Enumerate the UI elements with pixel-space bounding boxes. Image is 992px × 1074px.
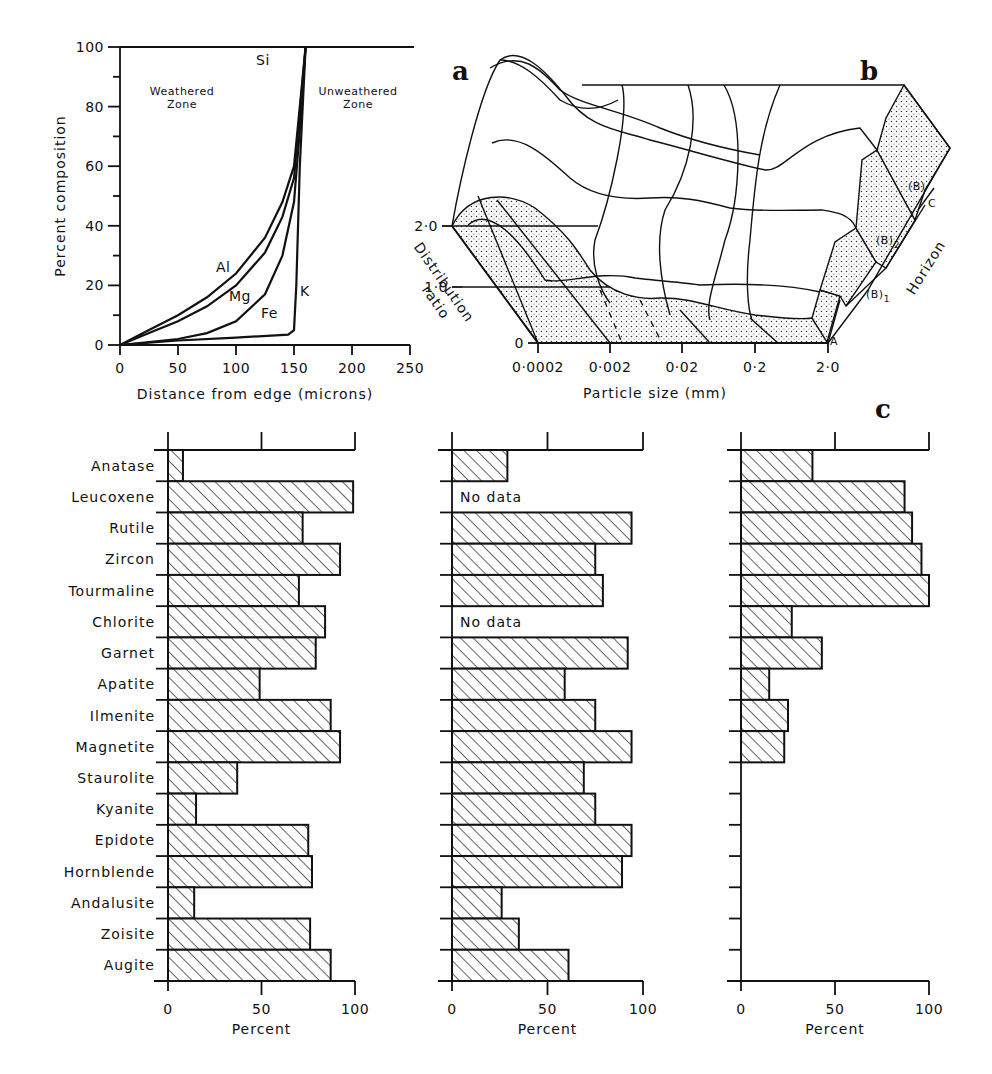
bar xyxy=(452,637,628,668)
category-label: Hornblende xyxy=(64,864,155,880)
bar xyxy=(452,762,584,793)
particle-size-tick: 0·02 xyxy=(665,359,698,375)
category-label: Augite xyxy=(104,957,155,973)
x-tick-label: 100 xyxy=(222,360,250,376)
unweathered-zone-label: Unweathered xyxy=(318,85,397,98)
bar xyxy=(452,825,632,856)
panel-a-letter: a xyxy=(452,56,469,86)
horizon-bc-label-c: C xyxy=(928,197,936,210)
particle-size-axis-title: Particle size (mm) xyxy=(583,385,727,401)
horizon-bc-label: (B) xyxy=(908,180,926,193)
weathered-zone-label-2: Zone xyxy=(167,98,197,111)
category-label: Kyanite xyxy=(96,801,155,817)
y-tick-label: 40 xyxy=(85,218,104,234)
bar-chart-left: 050100Percent xyxy=(154,432,369,1037)
bar xyxy=(168,481,353,512)
percent-tick: 0 xyxy=(163,1001,172,1017)
bar xyxy=(168,825,308,856)
category-label: Zircon xyxy=(105,551,155,567)
bar xyxy=(168,450,183,481)
bar xyxy=(741,606,792,637)
category-label: Epidote xyxy=(95,832,155,848)
panel-a-chart: 020406080100050100150200250 Weathered Zo… xyxy=(52,39,424,402)
bar xyxy=(741,450,812,481)
bar xyxy=(168,762,237,793)
bar xyxy=(741,731,784,762)
bar xyxy=(741,669,769,700)
percent-tick: 50 xyxy=(252,1001,271,1017)
bar xyxy=(168,856,312,887)
bar xyxy=(741,512,912,543)
distribution-tick: 0 xyxy=(515,335,524,351)
bar xyxy=(452,887,502,918)
no-data-label: No data xyxy=(460,614,522,630)
panel-c-letter: c xyxy=(875,394,891,424)
x-tick-label: 200 xyxy=(338,360,366,376)
bar xyxy=(452,512,632,543)
bar-chart-middle: No dataNo data050100Percent xyxy=(438,432,657,1037)
x-tick-label: 250 xyxy=(396,360,424,376)
y-tick-label: 100 xyxy=(76,39,104,55)
bar xyxy=(168,637,316,668)
bar xyxy=(168,950,331,981)
weathered-zone-label: Weathered xyxy=(150,85,214,98)
bar xyxy=(452,544,595,575)
y-axis-title: Percent composition xyxy=(52,115,68,276)
category-label: Ilmenite xyxy=(90,708,155,724)
bar xyxy=(452,731,632,762)
panel-b-3d-surface: 0·00020·0020·020·22·001·02·0 a b A (B)1 … xyxy=(411,55,950,401)
bar xyxy=(168,700,331,731)
bar xyxy=(452,700,595,731)
bar xyxy=(168,575,299,606)
panel-c-bar-charts: AnataseLeucoxeneRutileZirconTourmalineCh… xyxy=(64,432,943,1037)
particle-size-tick: 0·2 xyxy=(743,359,767,375)
particle-size-tick: 0·002 xyxy=(589,359,632,375)
bar xyxy=(452,669,565,700)
percent-axis-title: Percent xyxy=(518,1021,578,1037)
particle-size-tick: 2·0 xyxy=(816,359,840,375)
bar xyxy=(168,794,196,825)
horizon-a-label: A xyxy=(830,335,838,348)
horizon-b1-label: (B)1 xyxy=(866,288,890,304)
bar xyxy=(741,700,788,731)
bar xyxy=(741,544,921,575)
category-label: Andalusite xyxy=(71,895,155,911)
x-tick-label: 0 xyxy=(115,360,124,376)
category-label: Magnetite xyxy=(75,739,155,755)
bar xyxy=(168,544,340,575)
percent-tick: 50 xyxy=(826,1001,845,1017)
x-tick-label: 150 xyxy=(280,360,308,376)
percent-axis-title: Percent xyxy=(232,1021,292,1037)
distribution-tick: 2·0 xyxy=(414,218,438,234)
bar xyxy=(452,575,603,606)
y-tick-label: 20 xyxy=(85,277,104,293)
x-tick-label: 50 xyxy=(169,360,188,376)
bar xyxy=(741,481,905,512)
bar xyxy=(168,512,303,543)
bar xyxy=(168,669,260,700)
y-tick-label: 60 xyxy=(85,158,104,174)
percent-tick: 0 xyxy=(736,1001,745,1017)
bar xyxy=(168,731,340,762)
unweathered-zone-label-2: Zone xyxy=(343,98,373,111)
bar xyxy=(168,606,325,637)
bar-chart-right: 050100Percent xyxy=(727,432,943,1037)
figure: 020406080100050100150200250 Weathered Zo… xyxy=(0,0,992,1074)
horizon-axis-title: Horizon xyxy=(903,237,949,297)
panel-b-letter: b xyxy=(860,56,878,86)
bar xyxy=(452,919,519,950)
bar xyxy=(452,450,507,481)
percent-tick: 100 xyxy=(629,1001,657,1017)
series-label-k: K xyxy=(300,283,310,299)
bar xyxy=(452,950,569,981)
bar xyxy=(741,637,822,668)
category-label: Chlorite xyxy=(92,614,155,630)
category-label: Anatase xyxy=(91,458,155,474)
series-label-fe: Fe xyxy=(261,305,278,321)
series-label-mg: Mg xyxy=(229,288,251,304)
series-label-si: Si xyxy=(256,52,270,68)
particle-size-tick: 0·0002 xyxy=(512,359,564,375)
percent-tick: 0 xyxy=(447,1001,456,1017)
bar xyxy=(168,887,194,918)
category-label: Apatite xyxy=(97,676,155,692)
